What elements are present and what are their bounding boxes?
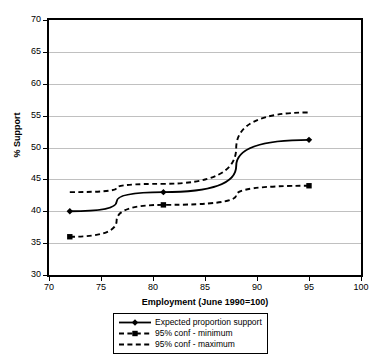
y-tick: 30 [0,270,41,279]
series-layer [49,20,361,275]
x-tick-label: 70 [34,283,64,292]
series-point [160,189,166,195]
y-tick: 55 [0,111,41,120]
legend-label: 95% conf - minimum [155,328,232,339]
y-tick-label: 65 [15,47,41,56]
plot-area [47,18,363,277]
y-axis-title: % Support [12,85,22,185]
legend-label: 95% conf - maximum [155,339,235,350]
x-tick-label: 100 [346,283,376,292]
y-tick-label: 35 [15,238,41,247]
y-tick-label: 45 [15,174,41,183]
series-point [161,202,166,207]
series-line [70,112,309,192]
series-point [306,137,312,143]
y-tick-label: 50 [15,143,41,152]
y-tick-label: 60 [15,79,41,88]
x-tick-mark [257,277,258,281]
x-tick-mark [205,277,206,281]
x-axis-title: Employment (June 1990=100) [47,297,363,307]
y-tick: 45 [0,174,41,183]
y-tick-label: 40 [15,206,41,215]
legend-marker [132,331,137,336]
x-tick-label: 85 [190,283,220,292]
x-tick-label: 90 [242,283,272,292]
x-tick-mark [49,277,50,281]
series-line [70,140,309,211]
x-tick-label: 80 [138,283,168,292]
x-tick-mark [309,277,310,281]
x-tick-mark [361,277,362,281]
y-tick: 50 [0,143,41,152]
x-tick-mark [153,277,154,281]
plot-inner [49,20,361,275]
legend-marker [132,319,138,325]
legend-item: Expected proportion support [118,317,262,328]
x-tick-label: 75 [86,283,116,292]
legend-label: Expected proportion support [155,317,262,328]
y-tick: 35 [0,238,41,247]
series-line [70,186,309,237]
legend-swatch [118,317,152,328]
x-tick-label: 95 [294,283,324,292]
y-tick-label: 70 [15,15,41,24]
y-tick: 40 [0,206,41,215]
y-tick: 60 [0,79,41,88]
legend-item: 95% conf - minimum [118,328,262,339]
legend-swatch [118,328,152,339]
series-point [306,183,311,188]
y-tick-label: 55 [15,111,41,120]
chart-legend: Expected proportion support95% conf - mi… [113,313,268,354]
legend-swatch [118,339,152,350]
y-tick: 65 [0,47,41,56]
y-tick: 70 [0,15,41,24]
series-point [67,208,73,214]
series-point [67,234,72,239]
legend-item: 95% conf - maximum [118,339,262,350]
y-tick-label: 30 [15,270,41,279]
x-tick-mark [101,277,102,281]
chart-container: % Support 303540455055606570 70758085909… [0,0,382,358]
